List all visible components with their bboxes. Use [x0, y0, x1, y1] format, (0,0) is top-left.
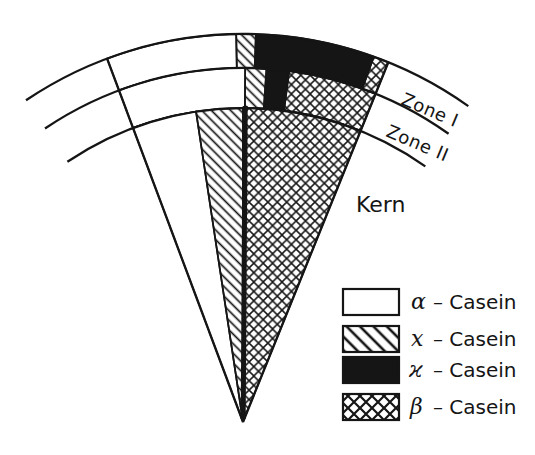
- legend-label-kappa: – Casein: [433, 358, 517, 382]
- zone2-label: Zone II: [383, 120, 452, 165]
- legend-row-kappa: ϰ – Casein: [343, 357, 517, 383]
- legend-row-x: x – Casein: [343, 326, 517, 352]
- legend-swatch-beta: [343, 394, 399, 420]
- figure-page: Zone I Zone II Kern α – Casein x – Casei…: [0, 0, 535, 455]
- legend-symbol-beta: β: [409, 394, 423, 419]
- legend-label-x: – Casein: [433, 327, 517, 351]
- kern-label: Kern: [356, 192, 405, 217]
- legend-symbol-alpha: α: [411, 289, 426, 314]
- legend-row-beta: β – Casein: [343, 394, 517, 420]
- legend-symbol-kappa: ϰ: [408, 357, 423, 382]
- legend: α – Casein x – Casein ϰ – Casein β – Cas…: [343, 289, 517, 420]
- legend-label-beta: – Casein: [433, 395, 517, 419]
- core-divider-line: [243, 106, 245, 419]
- zone2-x-segment: [245, 68, 267, 109]
- legend-swatch-kappa: [343, 357, 399, 383]
- wedge-diagram: Zone I Zone II Kern α – Casein x – Casei…: [0, 0, 535, 455]
- legend-swatch-alpha: [343, 289, 399, 315]
- legend-row-alpha: α – Casein: [343, 289, 517, 315]
- legend-symbol-x: x: [411, 326, 424, 351]
- zone1-x-segment: [236, 34, 256, 68]
- legend-swatch-x: [343, 326, 399, 352]
- legend-label-alpha: – Casein: [433, 290, 517, 314]
